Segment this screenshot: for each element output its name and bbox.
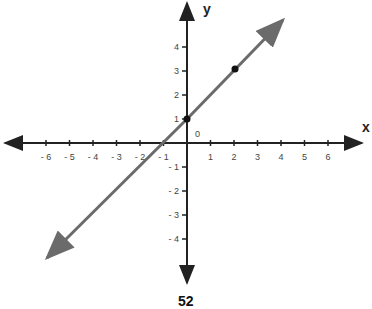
- x-tick-label: 5: [302, 152, 307, 162]
- x-tick-label: - 6: [41, 152, 52, 162]
- y-tick-label: 1: [174, 114, 179, 124]
- y-tick-label: 3: [174, 66, 179, 76]
- y-tick-label: 2: [174, 90, 179, 100]
- x-axis-label: x: [362, 119, 370, 135]
- y-tick-label: - 4: [168, 234, 179, 244]
- x-tick-label: - 5: [64, 152, 75, 162]
- y-tick-label: - 2: [168, 186, 179, 196]
- x-tick-label: - 1: [158, 152, 169, 162]
- x-tick-label: - 4: [88, 152, 99, 162]
- page-number: 52: [178, 293, 194, 309]
- y-tick-label: - 3: [168, 210, 179, 220]
- x-tick-label: 6: [325, 152, 330, 162]
- origin-label: 0: [195, 129, 200, 139]
- y-tick-label: 4: [174, 42, 179, 52]
- point-2-3: [232, 66, 239, 73]
- x-tick-label: 3: [255, 152, 260, 162]
- y-axis-label: y: [203, 1, 211, 17]
- x-tick-label: 2: [231, 152, 236, 162]
- graph-line-neg: [47, 119, 187, 258]
- y-tick-label: - 1: [168, 162, 179, 172]
- x-tick-label: 4: [278, 152, 283, 162]
- point-0-1: [184, 116, 191, 123]
- x-tick-label: 1: [208, 152, 213, 162]
- x-tick-label: - 3: [111, 152, 122, 162]
